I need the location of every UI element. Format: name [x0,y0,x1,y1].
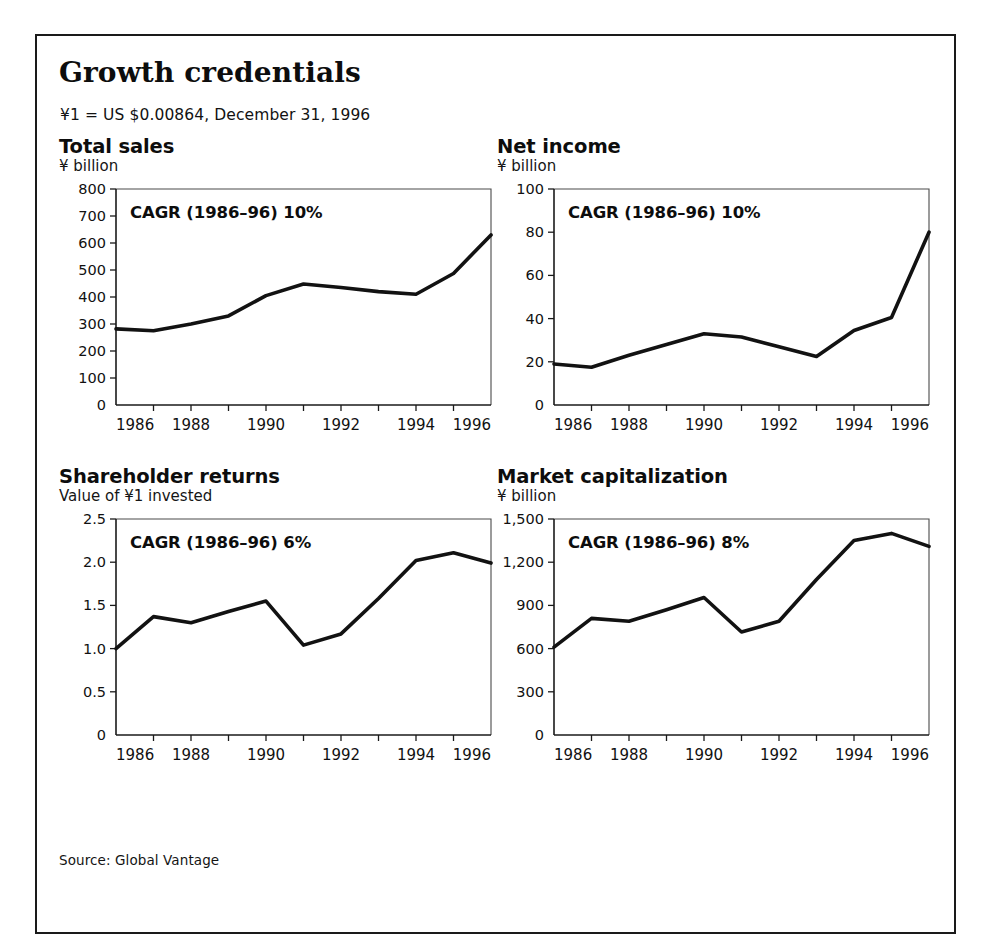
svg-text:1.5: 1.5 [83,598,106,614]
svg-text:1986: 1986 [116,746,154,764]
svg-text:1994: 1994 [397,746,435,764]
svg-text:1986: 1986 [554,746,592,764]
svg-text:0: 0 [535,397,544,413]
chart-panel-shareholder-returns: Shareholder returns Value of ¥1 invested… [59,466,499,784]
cagr-annotation-market-capitalization: CAGR (1986–96) 8% [568,533,749,552]
chart-panel-market-capitalization: Market capitalization ¥ billion 03006009… [497,466,937,784]
svg-text:1.0: 1.0 [83,641,106,657]
svg-text:1992: 1992 [322,416,360,434]
svg-text:2.5: 2.5 [83,511,106,527]
svg-text:0: 0 [97,397,106,413]
svg-text:1992: 1992 [322,746,360,764]
svg-text:2.0: 2.0 [83,554,106,570]
svg-text:700: 700 [78,208,106,224]
chart-unit-net-income: ¥ billion [497,158,937,175]
chart-title-net-income: Net income [497,136,937,157]
svg-text:1994: 1994 [835,746,873,764]
svg-text:60: 60 [526,268,544,284]
svg-text:1996: 1996 [453,416,491,434]
svg-text:1992: 1992 [760,416,798,434]
svg-text:0.5: 0.5 [83,684,106,700]
svg-text:400: 400 [78,289,106,305]
chart-title-market-capitalization: Market capitalization [497,466,937,487]
chart-title-shareholder-returns: Shareholder returns [59,466,499,487]
plot-area-shareholder-returns: 00.51.01.52.02.5198619881990199219941996… [59,511,499,773]
svg-text:800: 800 [78,181,106,197]
svg-text:500: 500 [78,262,106,278]
svg-text:100: 100 [516,181,544,197]
chart-panel-total-sales: Total sales ¥ billion 010020030040050060… [59,136,499,454]
svg-text:1996: 1996 [891,746,929,764]
plot-area-total-sales: 0100200300400500600700800198619881990199… [59,181,499,443]
svg-text:1994: 1994 [835,416,873,434]
svg-text:300: 300 [78,316,106,332]
chart-title-total-sales: Total sales [59,136,499,157]
exhibit-frame: Growth credentials ¥1 = US $0.00864, Dec… [35,34,956,934]
svg-text:80: 80 [526,224,544,240]
svg-text:1986: 1986 [116,416,154,434]
cagr-annotation-shareholder-returns: CAGR (1986–96) 6% [130,533,311,552]
svg-text:1994: 1994 [397,416,435,434]
cagr-annotation-net-income: CAGR (1986–96) 10% [568,203,761,222]
svg-text:1996: 1996 [453,746,491,764]
page-title: Growth credentials [59,56,934,89]
svg-text:1988: 1988 [172,416,210,434]
svg-text:1,200: 1,200 [502,554,544,570]
charts-grid: Total sales ¥ billion 010020030040050060… [59,136,939,776]
svg-text:600: 600 [78,235,106,251]
chart-panel-net-income: Net income ¥ billion 0204060801001986198… [497,136,937,454]
svg-text:1990: 1990 [685,746,723,764]
exchange-rate-note: ¥1 = US $0.00864, December 31, 1996 [60,106,934,124]
source-note: Source: Global Vantage [59,852,219,868]
chart-unit-total-sales: ¥ billion [59,158,499,175]
svg-text:20: 20 [526,354,544,370]
svg-text:0: 0 [97,727,106,743]
chart-unit-shareholder-returns: Value of ¥1 invested [59,488,499,505]
svg-text:900: 900 [516,598,544,614]
svg-text:1988: 1988 [172,746,210,764]
svg-text:1996: 1996 [891,416,929,434]
svg-text:40: 40 [526,311,544,327]
svg-text:1990: 1990 [247,746,285,764]
svg-text:1992: 1992 [760,746,798,764]
svg-text:1990: 1990 [247,416,285,434]
svg-text:300: 300 [516,684,544,700]
cagr-annotation-total-sales: CAGR (1986–96) 10% [130,203,323,222]
svg-text:200: 200 [78,343,106,359]
svg-text:0: 0 [535,727,544,743]
svg-text:1990: 1990 [685,416,723,434]
svg-text:100: 100 [78,370,106,386]
chart-unit-market-capitalization: ¥ billion [497,488,937,505]
plot-area-market-capitalization: 03006009001,2001,50019861988199019921994… [497,511,937,773]
svg-text:1988: 1988 [610,416,648,434]
svg-text:1988: 1988 [610,746,648,764]
svg-text:1986: 1986 [554,416,592,434]
svg-text:1,500: 1,500 [502,511,544,527]
plot-area-net-income: 020406080100198619881990199219941996 CAG… [497,181,937,443]
svg-text:600: 600 [516,641,544,657]
